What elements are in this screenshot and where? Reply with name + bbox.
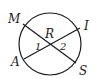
- angle-label-1: 1: [35, 41, 41, 52]
- point-label-m: M: [7, 12, 21, 26]
- geometry-diagram: M I A S R 1 2: [0, 0, 96, 79]
- point-label-s: S: [79, 64, 87, 78]
- angle-label-2: 2: [59, 41, 66, 52]
- point-label-a: A: [10, 55, 20, 69]
- point-label-r: R: [44, 27, 54, 41]
- point-label-i: I: [83, 19, 89, 33]
